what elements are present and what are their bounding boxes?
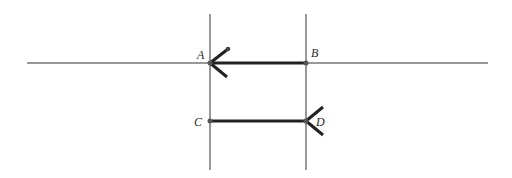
point-A-dot [208,61,213,66]
point-D-dot [304,119,309,124]
point-B-dot [304,61,309,66]
label-B: B [311,46,319,60]
label-C: C [194,115,203,129]
diagram-canvas: A B C D [0,0,512,178]
label-A: A [196,48,205,62]
point-C-dot [208,119,213,124]
label-D: D [315,115,325,129]
segment-AB [210,47,306,77]
arrowhead-A-upper [210,49,228,63]
arrowhead-A-tip-dot [226,47,231,52]
arrowhead-A-lower [210,63,227,77]
